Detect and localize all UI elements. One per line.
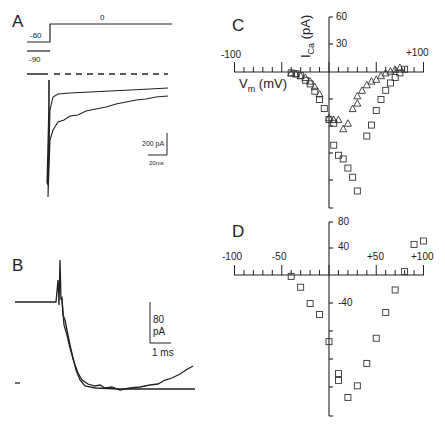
y-axis-label-unit: (pA) [298, 15, 313, 40]
panel-c-y-tick-60: 60 [336, 11, 347, 22]
panel-d-x-ticks [235, 265, 424, 275]
square-marker [421, 238, 427, 244]
panel-c-axes [234, 17, 424, 208]
triangle-marker [354, 100, 361, 107]
panel-d-data-points [288, 238, 426, 400]
panel-d-axes [234, 222, 424, 416]
panel-c-y-tick-30: 30 [336, 38, 347, 49]
panel-c-data-points [288, 64, 408, 194]
x-axis-label-subscript: m [248, 84, 256, 94]
square-marker [345, 165, 351, 171]
panel-a-current-scale-label: 200 pA [142, 140, 164, 147]
panel-c-y-axis-label: ICa (pA) [298, 15, 316, 58]
holding-potential-label-60: -60 [30, 31, 42, 40]
square-marker [350, 174, 356, 180]
square-marker [364, 133, 370, 139]
square-marker [312, 88, 318, 94]
square-marker [345, 394, 351, 400]
triangle-marker [316, 90, 323, 97]
square-marker [369, 122, 375, 128]
panel-a-label: A [12, 12, 23, 32]
panel-a-voltage-protocol [27, 24, 172, 51]
step-potential-label: 0 [100, 13, 104, 22]
panel-d-x-tick-minus50: -50 [272, 251, 286, 262]
panel-d-x-tick-plus100: +100 [411, 251, 434, 262]
square-marker [411, 241, 417, 247]
panel-d-x-tick-minus100: -100 [222, 251, 242, 262]
square-marker [392, 287, 398, 293]
panel-d-label: D [232, 222, 244, 242]
panel-c-x-tick-min: -100 [221, 49, 241, 60]
square-marker [331, 142, 337, 148]
panel-b-time-scale-label: 1 ms [152, 347, 174, 358]
x-axis-label-v: V [239, 76, 248, 91]
square-marker [383, 309, 389, 315]
square-marker [321, 106, 327, 112]
panel-d-y-tick-80: 80 [338, 216, 349, 227]
panel-d-y-tick-minus40: -40 [338, 297, 352, 308]
square-marker [354, 188, 360, 194]
panel-a-time-scale-label: 20ms [149, 160, 164, 166]
panel-d-y-tick-40: 40 [338, 241, 349, 252]
square-marker [383, 87, 389, 93]
panel-b-current-scale-value: 80 [153, 314, 164, 325]
panel-c-x-tick-max: +100 [406, 47, 429, 58]
figure-canvas [0, 0, 445, 427]
panel-c-x-axis-label: Vm (mV) [239, 76, 287, 94]
holding-potential-label-90: -90 [29, 55, 41, 64]
x-axis-label-unit: (mV) [259, 76, 287, 91]
triangle-marker [335, 116, 342, 123]
panel-b-label: B [12, 256, 23, 276]
square-marker [373, 335, 379, 341]
square-marker [307, 301, 313, 307]
square-marker [298, 284, 304, 290]
square-marker [378, 96, 384, 102]
panel-b-current-traces [15, 260, 195, 390]
triangle-marker [344, 120, 351, 127]
panel-a-current-traces [47, 80, 168, 197]
square-marker [354, 383, 360, 389]
panel-b-current-scale-unit: pA [153, 326, 165, 337]
y-axis-label-i: I [298, 54, 313, 58]
square-marker [335, 371, 341, 377]
panel-c-x-ticks [235, 62, 424, 72]
square-marker [364, 360, 370, 366]
panel-d-x-tick-plus50: +50 [367, 251, 384, 262]
panel-c-label: C [232, 16, 244, 36]
square-marker [335, 377, 341, 383]
square-marker [373, 107, 379, 113]
square-marker [317, 311, 323, 317]
y-axis-label-subscript: Ca [306, 43, 316, 55]
